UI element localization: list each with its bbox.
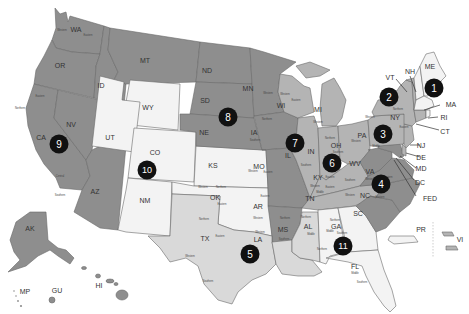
circuit-badge-2[interactable]: 2 bbox=[380, 88, 399, 107]
state-mi[interactable] bbox=[320, 78, 346, 126]
svg-text:Northern: Northern bbox=[393, 107, 404, 111]
circuit-badge-1[interactable]: 1 bbox=[425, 79, 444, 98]
svg-text:Middle: Middle bbox=[326, 229, 334, 233]
territory-vi[interactable] bbox=[442, 232, 458, 250]
label-mi: MI bbox=[314, 106, 322, 113]
svg-text:Western: Western bbox=[198, 185, 208, 189]
svg-text:Western: Western bbox=[365, 115, 375, 119]
svg-text:Northern: Northern bbox=[199, 217, 210, 221]
svg-text:Eastern: Eastern bbox=[400, 125, 409, 129]
territory-gu[interactable] bbox=[49, 297, 55, 303]
circuit-badge-9[interactable]: 9 bbox=[50, 135, 69, 154]
state-ct[interactable] bbox=[414, 110, 426, 122]
svg-text:11: 11 bbox=[338, 241, 347, 251]
svg-text:Western: Western bbox=[253, 216, 263, 220]
state-mi-up[interactable] bbox=[296, 62, 330, 78]
label-mo: MO bbox=[253, 163, 265, 170]
svg-text:8: 8 bbox=[225, 112, 231, 123]
svg-text:9: 9 bbox=[56, 139, 62, 150]
svg-text:Eastern: Eastern bbox=[261, 194, 270, 198]
label-oh: OH bbox=[331, 142, 342, 149]
svg-text:Middle: Middle bbox=[372, 144, 380, 148]
svg-text:Eastern: Eastern bbox=[216, 234, 225, 238]
label-nm: NM bbox=[140, 197, 151, 204]
svg-text:Southern: Southern bbox=[250, 138, 261, 142]
label-al: AL bbox=[304, 223, 313, 230]
state-nm[interactable] bbox=[118, 178, 172, 236]
callout-fed: FED bbox=[423, 195, 437, 202]
label-in: IN bbox=[308, 148, 315, 155]
label-mn: MN bbox=[243, 85, 254, 92]
svg-text:Southern: Southern bbox=[301, 163, 312, 167]
circuit-badge-11[interactable]: 11 bbox=[334, 237, 353, 256]
callout-ma: MA bbox=[446, 101, 457, 108]
svg-text:Western: Western bbox=[345, 193, 355, 197]
svg-text:6: 6 bbox=[329, 158, 335, 169]
label-ne: NE bbox=[199, 129, 209, 136]
svg-text:Northern: Northern bbox=[262, 117, 273, 121]
label-wv: WV bbox=[349, 160, 361, 167]
state-nd[interactable] bbox=[196, 42, 252, 84]
label-pa: PA bbox=[358, 132, 367, 139]
svg-text:Western: Western bbox=[248, 169, 258, 173]
label-ny: NY bbox=[390, 114, 400, 121]
svg-text:Western: Western bbox=[313, 120, 323, 124]
state-ak[interactable] bbox=[8, 212, 74, 272]
label-tx: TX bbox=[201, 235, 210, 242]
callout-nh: NH bbox=[405, 68, 415, 75]
svg-text:Southern: Southern bbox=[357, 280, 368, 284]
callout-ri: RI bbox=[441, 114, 448, 121]
label-fl: FL bbox=[351, 263, 359, 270]
svg-text:Southern: Southern bbox=[203, 279, 214, 283]
circuit-badge-7[interactable]: 7 bbox=[286, 134, 305, 153]
svg-text:Eastern: Eastern bbox=[264, 170, 273, 174]
label-ga: GA bbox=[331, 223, 341, 230]
svg-text:Middle: Middle bbox=[316, 190, 324, 194]
svg-text:Northern: Northern bbox=[280, 216, 291, 220]
state-co[interactable] bbox=[128, 128, 196, 182]
svg-text:Middle: Middle bbox=[307, 232, 315, 236]
label-ak: AK bbox=[25, 225, 35, 232]
state-mt[interactable] bbox=[108, 28, 200, 84]
label-mp: MP bbox=[20, 288, 31, 295]
circuit-badge-8[interactable]: 8 bbox=[219, 108, 238, 127]
svg-text:Eastern: Eastern bbox=[218, 202, 227, 206]
svg-text:Southern: Southern bbox=[345, 178, 356, 182]
circuit-badge-6[interactable]: 6 bbox=[323, 154, 342, 173]
circuit-badge-5[interactable]: 5 bbox=[241, 245, 260, 264]
state-ri[interactable] bbox=[426, 110, 430, 118]
label-il: IL bbox=[285, 152, 291, 159]
svg-text:Northern: Northern bbox=[216, 185, 227, 189]
label-nc: NC bbox=[360, 192, 370, 199]
svg-text:Middle: Middle bbox=[351, 271, 359, 275]
svg-text:3: 3 bbox=[380, 129, 386, 140]
svg-text:4: 4 bbox=[378, 179, 384, 190]
svg-text:Western: Western bbox=[185, 254, 195, 258]
label-ms: MS bbox=[278, 226, 289, 233]
svg-text:Eastern: Eastern bbox=[36, 94, 45, 98]
svg-text:Western: Western bbox=[351, 139, 361, 143]
svg-text:Eastern: Eastern bbox=[84, 33, 93, 37]
svg-text:Northern: Northern bbox=[301, 215, 312, 219]
svg-text:2: 2 bbox=[386, 92, 392, 103]
territory-pr[interactable] bbox=[388, 236, 418, 244]
label-tn: TN bbox=[305, 195, 314, 202]
label-sc: SC bbox=[353, 210, 363, 217]
state-hi[interactable] bbox=[82, 267, 129, 301]
svg-text:Eastern: Eastern bbox=[326, 175, 335, 179]
svg-text:Western: Western bbox=[310, 184, 320, 188]
circuit-badge-3[interactable]: 3 bbox=[374, 125, 393, 144]
callout-vt: VT bbox=[386, 74, 396, 81]
svg-text:Eastern: Eastern bbox=[292, 98, 301, 102]
circuit-badge-10[interactable]: 10 bbox=[138, 161, 157, 180]
label-gu: GU bbox=[52, 287, 63, 294]
label-ut: UT bbox=[105, 134, 115, 141]
svg-text:7: 7 bbox=[292, 138, 298, 149]
label-ok: OK bbox=[210, 194, 220, 201]
svg-text:1: 1 bbox=[431, 83, 437, 94]
circuit-badge-4[interactable]: 4 bbox=[372, 175, 391, 194]
svg-text:Western: Western bbox=[263, 91, 273, 95]
label-ar: AR bbox=[253, 203, 263, 210]
circuit-map: WA OR CA NV ID MT AZ AK HI GU MP WY UT C… bbox=[0, 0, 469, 314]
svg-text:10: 10 bbox=[142, 165, 152, 175]
